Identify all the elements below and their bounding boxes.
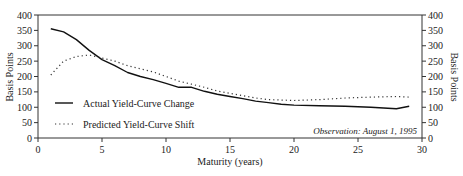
y-tick-label-left: 150 xyxy=(17,86,32,97)
y-tick-label-right: 350 xyxy=(428,25,443,36)
x-tick-label: 30 xyxy=(417,144,427,155)
y-tick-label-left: 100 xyxy=(17,102,32,113)
y-tick-label-right: 400 xyxy=(428,10,443,21)
x-tick-label: 5 xyxy=(100,144,105,155)
predicted-yield-curve-line xyxy=(51,55,409,101)
y-tick-label-right: 50 xyxy=(428,117,438,128)
observation-annotation: Observation: August 1, 1995 xyxy=(313,126,417,136)
yield-curve-chart: 0050501001001501502002002502503003003503… xyxy=(0,0,463,176)
x-tick-label: 10 xyxy=(161,144,171,155)
x-tick-label: 0 xyxy=(36,144,41,155)
legend-label-actual: Actual Yield-Curve Change xyxy=(83,98,195,109)
y-axis-label-left: Basis Points xyxy=(4,52,15,101)
legend-label-predicted: Predicted Yield-Curve Shift xyxy=(83,119,194,130)
actual-yield-curve-line xyxy=(51,29,409,109)
y-tick-label-left: 0 xyxy=(27,133,32,144)
y-tick-label-right: 250 xyxy=(428,56,443,67)
y-tick-label-left: 250 xyxy=(17,56,32,67)
y-tick-label-right: 150 xyxy=(428,86,443,97)
y-tick-label-left: 300 xyxy=(17,40,32,51)
y-axis-label-right: Basis Points xyxy=(449,52,460,101)
y-tick-label-right: 0 xyxy=(428,133,433,144)
x-tick-label: 15 xyxy=(225,144,235,155)
y-tick-label-left: 400 xyxy=(17,10,32,21)
y-tick-label-left: 350 xyxy=(17,25,32,36)
y-tick-label-right: 200 xyxy=(428,71,443,82)
y-tick-label-right: 100 xyxy=(428,102,443,113)
y-tick-label-left: 200 xyxy=(17,71,32,82)
legend: Actual Yield-Curve Change Predicted Yiel… xyxy=(55,98,195,130)
x-axis-label: Maturity (years) xyxy=(197,156,262,168)
x-tick-label: 20 xyxy=(289,144,299,155)
y-tick-label-right: 300 xyxy=(428,40,443,51)
x-tick-label: 25 xyxy=(353,144,363,155)
series-lines xyxy=(51,29,409,109)
y-tick-label-left: 50 xyxy=(22,117,32,128)
